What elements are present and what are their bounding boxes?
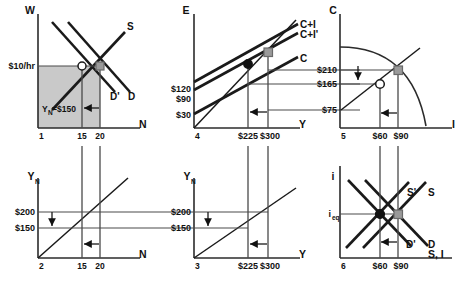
panel3-origin-label: 5 [341,131,346,141]
panel1-marker-initial-equilibrium [96,62,104,70]
panel2-x-axis-label: Y [299,118,306,130]
panel3-y-axis-label: C [329,4,337,16]
panel1-marker-new-equilibrium [78,62,86,70]
panel1-x-axis-label: N [139,118,147,130]
panel5-x-tick-225: $225 [238,261,258,271]
panel6-y-tick-ieq-sub: eq [332,214,340,222]
panel-4-production-function-N: Y N N $200 $150 2 15 20 [15,146,155,271]
panel6-x-tick-60: $60 [372,261,387,271]
panel6-marker-initial-equilibrium [394,210,403,219]
panel-6-loanable-funds: i S, I i eq 6 $60 $90 S' S D' D [328,146,452,271]
panel6-label-S: S [428,187,435,198]
economics-six-panel-figure: W N $10/hr 1 15 20 S D' D Y N =$150 [0,0,462,292]
panel1-label-S: S [127,21,134,32]
panel4-y-axis-sub: N [35,178,40,185]
panel2-y-axis-label: E [182,4,189,16]
panel3-x-tick-60: $60 [372,131,387,141]
panel-1-labor-market: W N $10/hr 1 15 20 S D' D Y N =$150 [8,4,146,141]
panel5-x-axis-label: Y [299,248,306,260]
panel6-label-D: D [428,239,435,250]
panel1-label-D: D [128,91,135,102]
panel6-y-axis-label: i [332,170,335,182]
panel2-marker-initial-equilibrium [264,48,273,57]
panel5-production-curve [194,188,296,258]
panel5-y-tick-150: $150 [171,223,191,233]
panel1-origin-label: 1 [39,131,44,141]
panel2-x-tick-225: $225 [238,131,258,141]
panel1-x-tick-20: 20 [95,131,105,141]
panel6-label-S-prime: S' [407,187,416,198]
panel3-y-tick-210: $210 [317,65,337,75]
panel1-label-D-prime: D' [110,91,120,102]
panel5-y-tick-200: $200 [171,207,191,217]
panel-5-production-function-Y: Y N Y $200 $150 3 $225 $300 [155,146,306,271]
panel2-origin-label: 4 [195,131,200,141]
panel4-x-tick-15: 15 [77,261,87,271]
panel6-marker-new-equilibrium [376,210,385,219]
figure-canvas: W N $10/hr 1 15 20 S D' D Y N =$150 [0,0,462,292]
panel5-x-tick-300: $300 [260,261,280,271]
panel-3-investment: C I $210 $165 $75 5 $60 $90 [317,4,455,141]
panel3-x-tick-90: $90 [393,131,408,141]
panel4-x-axis-label: N [139,248,147,260]
panel6-label-D-prime: D' [406,239,416,250]
panel4-y-axis-label: Y [27,170,34,182]
panel2-y-tick-30: $30 [176,110,191,120]
panel5-y-axis-label: Y [183,170,190,182]
panel1-shaded-wage-bill [38,66,100,128]
panel5-y-axis-sub: N [191,178,196,185]
panel1-y-axis-label: W [25,4,35,16]
panel5-origin-label: 3 [195,261,200,271]
panel1-income-value: =$150 [52,104,76,114]
panel6-y-tick-ieq: i [328,209,331,219]
panel2-y-tick-120: $120 [171,84,191,94]
panel6-x-tick-90: $90 [393,261,408,271]
panel2-label-C: C [300,53,307,64]
panel2-marker-new-equilibrium [244,60,253,69]
panel4-x-tick-20: 20 [95,261,105,271]
panel2-label-C-plus-I-prime: C+I' [300,29,318,40]
panel3-marker-new-equilibrium [376,80,385,89]
panel2-y-tick-90: $90 [176,94,191,104]
panel3-y-tick-75: $75 [322,105,337,115]
panel4-origin-label: 2 [39,261,44,271]
panel4-y-tick-150: $150 [15,223,35,233]
panel3-x-axis-label: I [452,118,455,130]
panel6-origin-label: 6 [341,261,346,271]
panel2-x-tick-300: $300 [260,131,280,141]
panel1-wage-tick: $10/hr [8,61,35,71]
panel3-y-tick-165: $165 [317,79,337,89]
panel1-x-tick-15: 15 [77,131,87,141]
panel3-marker-initial-equilibrium [394,66,403,75]
panel4-y-tick-200: $200 [15,207,35,217]
